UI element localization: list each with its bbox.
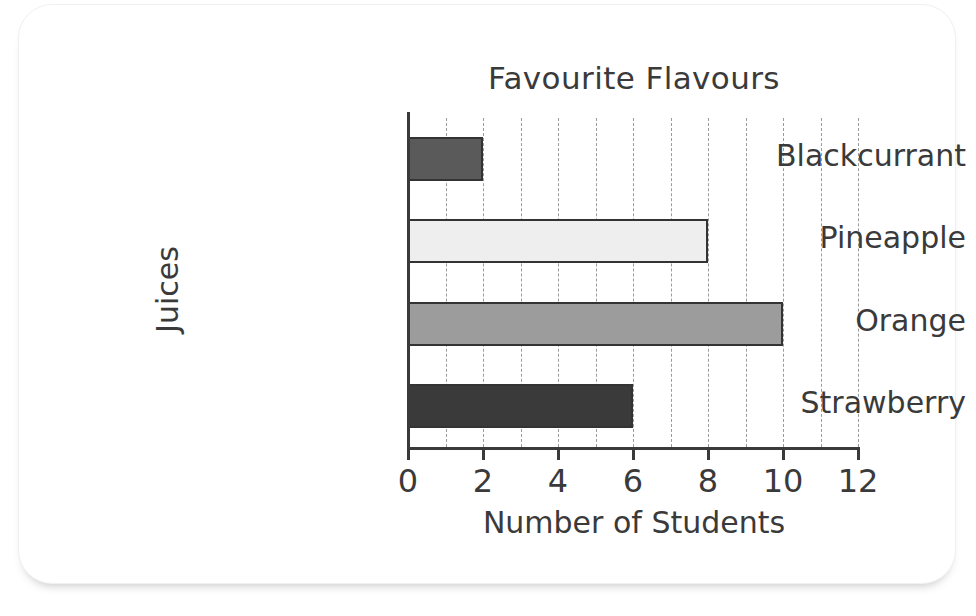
x-tick [632, 450, 635, 460]
x-tick [557, 450, 560, 460]
chart-title: Favourite Flavours [408, 60, 860, 96]
x-tick-label: 12 [823, 462, 893, 500]
x-tick-label: 4 [523, 462, 593, 500]
x-tick [857, 450, 860, 460]
y-tick-label-strawberry: Strawberry [556, 385, 976, 420]
x-tick-label: 2 [448, 462, 518, 500]
x-axis-title: Number of Students [408, 505, 860, 540]
y-axis-title: Juices [150, 220, 185, 360]
x-tick [782, 450, 785, 460]
x-tick [707, 450, 710, 460]
x-tick-label: 10 [748, 462, 818, 500]
x-tick [482, 450, 485, 460]
bar-blackcurrant [408, 137, 483, 181]
x-tick-label: 6 [598, 462, 668, 500]
y-tick-label-blackcurrant: Blackcurrant [556, 138, 976, 173]
x-tick [407, 450, 410, 460]
y-axis-line [407, 112, 410, 453]
x-tick-label: 8 [673, 462, 743, 500]
bar-chart: Favourite Flavours Number of Students Ju… [0, 0, 976, 616]
x-tick-label: 0 [373, 462, 443, 500]
y-tick-label-pineapple: Pineapple [556, 220, 976, 255]
y-tick-label-orange: Orange [556, 303, 976, 338]
page-root: Favourite Flavours Number of Students Ju… [0, 0, 976, 616]
